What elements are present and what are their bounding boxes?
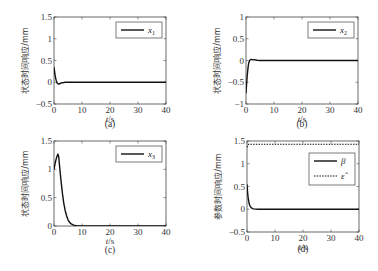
x-tick-label: 30 — [134, 105, 144, 115]
legend: x3 — [116, 146, 162, 162]
legend-label-main: β — [340, 156, 346, 166]
legend: x1 — [116, 22, 162, 38]
series-line-beta — [247, 184, 359, 209]
legend-label: β — [340, 156, 346, 166]
legend-label-sub: 2 — [344, 30, 347, 36]
panel-d: 010203040−0.500.511.5t/s(d)参数时间响应/mmβε̂ — [213, 136, 364, 255]
y-tick-label: −0.5 — [228, 77, 245, 87]
x-tick-label: 0 — [52, 227, 57, 237]
legend-box — [309, 153, 355, 185]
y-tick-label: 0 — [48, 77, 53, 87]
y-tick-label: 0 — [241, 204, 246, 214]
y-tick-label: −1 — [234, 99, 244, 109]
y-axis-label: 状态时间响应/mm — [20, 27, 30, 93]
x-tick-label: 40 — [354, 105, 364, 115]
x-tick-label: 10 — [78, 227, 88, 237]
x-tick-label: 0 — [245, 233, 250, 243]
y-tick-label: 1 — [48, 34, 53, 44]
y-tick-label: 1 — [241, 159, 246, 169]
series-line-x2 — [246, 59, 358, 93]
x-tick-label: 10 — [271, 233, 281, 243]
x-tick-label: 0 — [244, 105, 249, 115]
panel-caption: (c) — [105, 245, 116, 256]
y-tick-label: −0.5 — [229, 227, 246, 237]
y-tick-label: 0.5 — [41, 193, 53, 203]
legend-label-sub: 3 — [152, 154, 155, 160]
panel-caption: (d) — [297, 244, 308, 255]
legend: βε̂ — [309, 153, 355, 185]
x-tick-label: 30 — [327, 233, 337, 243]
y-tick-label: −0.5 — [36, 99, 53, 109]
x-tick-label: 30 — [326, 105, 336, 115]
panel-c: 01020304000.511.5t/s(c)状态时间响应/mmx3 — [20, 136, 171, 256]
y-tick-label: 0 — [48, 221, 53, 231]
x-tick-label: 30 — [134, 227, 144, 237]
y-tick-label: 1.5 — [41, 12, 53, 22]
figure: 010203040−0.500.511.5t/s(a)状态时间响应/mmx101… — [0, 0, 378, 271]
y-axis-label: 参数时间响应/mm — [213, 153, 223, 219]
series-line-x1 — [54, 67, 166, 84]
y-tick-label: 1 — [240, 12, 245, 22]
y-axis-label: 状态时间响应/mm — [20, 150, 30, 216]
y-tick-label: 1 — [48, 164, 53, 174]
legend: x2 — [308, 22, 354, 38]
x-tick-label: 40 — [162, 227, 172, 237]
y-tick-label: 1.5 — [41, 136, 53, 146]
series-line-x3 — [54, 154, 166, 226]
panel-caption: (b) — [296, 119, 307, 130]
x-tick-label: 10 — [78, 105, 88, 115]
y-axis-label: 状态时间响应/mm — [212, 27, 222, 93]
x-tick-label: 0 — [52, 105, 57, 115]
y-tick-label: 0 — [240, 56, 245, 66]
y-tick-label: 0.5 — [41, 56, 53, 66]
panel-b: 010203040−1−0.500.51t/s(b)状态时间响应/mmx2 — [212, 12, 363, 130]
x-tick-label: 10 — [270, 105, 280, 115]
series-line-epsilon_hat — [247, 144, 359, 147]
x-tick-label: 40 — [355, 233, 365, 243]
y-tick-label: 1.5 — [234, 136, 246, 146]
y-tick-label: 0.5 — [234, 182, 246, 192]
panel-a: 010203040−0.500.511.5t/s(a)状态时间响应/mmx1 — [20, 12, 171, 130]
legend-label-sub: 1 — [152, 30, 155, 36]
y-tick-label: 0.5 — [233, 34, 245, 44]
panel-caption: (a) — [105, 119, 116, 130]
x-tick-label: 40 — [162, 105, 172, 115]
